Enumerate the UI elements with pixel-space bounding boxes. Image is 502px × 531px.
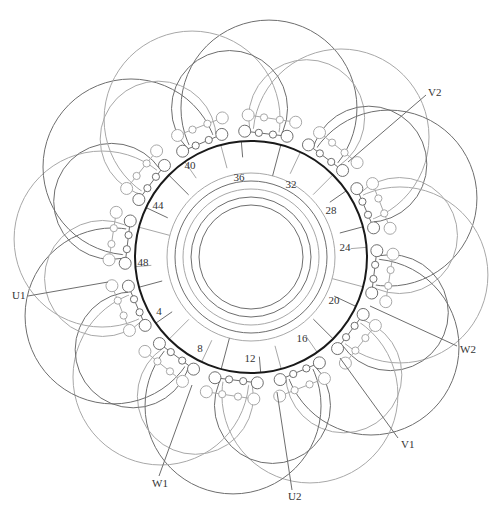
coil-turn-node: [179, 357, 186, 364]
coil-turn-node: [290, 370, 297, 377]
terminal-leader-u2: [277, 392, 292, 490]
coil-turn-node: [125, 231, 132, 238]
coil-end-node: [384, 222, 396, 234]
coil-turn-node: [219, 391, 226, 398]
coil-turn-node: [240, 378, 247, 385]
coil-end-node: [158, 159, 170, 171]
coil-end-node: [200, 386, 212, 398]
coil-end-node: [281, 130, 293, 142]
coil-end-node: [124, 215, 136, 227]
slot-number-label: 4: [156, 305, 162, 317]
coil-turn-node: [359, 198, 366, 205]
coil-turn-node: [108, 240, 115, 247]
coil-turn-node: [110, 225, 117, 232]
coil-turn-node: [341, 149, 348, 156]
coil-end-node: [367, 178, 379, 190]
slot-number-label: 40: [185, 159, 197, 171]
terminal-leader-v1: [340, 358, 398, 438]
coil-turn-node: [351, 322, 358, 329]
coil-turn-node: [306, 381, 313, 388]
coil-turn-node: [192, 142, 199, 149]
coil-end-node: [387, 248, 399, 260]
coil-end-node: [153, 338, 165, 350]
coil-end-node: [151, 145, 163, 157]
coil-turn-node: [255, 129, 262, 136]
coil-turn-node: [375, 195, 382, 202]
coil-end-node: [176, 375, 188, 387]
coil-end-node: [369, 320, 381, 332]
coil-turn-node: [136, 309, 143, 316]
coil-end-node: [216, 112, 228, 124]
slot-number-label: 48: [138, 256, 150, 268]
coil-turn-node: [205, 136, 212, 143]
slot-number-label: 44: [153, 199, 165, 211]
coil-end-node: [172, 129, 184, 141]
terminal-label-w2: W2: [460, 343, 476, 355]
coil-turn-node: [234, 393, 241, 400]
coil-end-node: [123, 324, 135, 336]
coil-end-node: [133, 194, 145, 206]
coil-end-node: [239, 125, 251, 137]
coil-turn-node: [269, 131, 276, 138]
slot-number-label: 36: [234, 171, 246, 183]
terminal-label-u1: U1: [12, 289, 25, 301]
slot-number-label: 32: [286, 178, 297, 190]
coil-turn-node: [370, 275, 377, 282]
coil-turn-node: [130, 296, 137, 303]
coil-end-node: [139, 345, 151, 357]
coil-turn-node: [144, 185, 151, 192]
coil-turn-node: [114, 297, 121, 304]
coil-end-node: [242, 109, 254, 121]
coil-turn-node: [328, 139, 335, 146]
coil-end-node: [314, 127, 326, 139]
winding-diagram: 3632282420161284484440 U1U2V1V2W1W2: [0, 0, 502, 531]
coil-end-node: [380, 296, 392, 308]
coil-end-node: [290, 116, 302, 128]
terminal-leader-u1: [28, 282, 108, 296]
coil-turn-node: [225, 376, 232, 383]
coil-turn-node: [303, 365, 310, 372]
coil-turn-node: [167, 348, 174, 355]
coil-end-node: [274, 374, 286, 386]
coil-end-node: [103, 254, 115, 266]
coil-end-node: [106, 280, 118, 292]
slot-number-label: 24: [340, 241, 352, 253]
coil-turn-node: [260, 114, 267, 121]
coil-turn-node: [123, 246, 130, 253]
terminal-label-v2: V2: [428, 86, 441, 98]
coil-end-node: [302, 139, 314, 151]
coil-turn-node: [387, 266, 394, 273]
slot-number-label: 8: [197, 342, 203, 354]
coil-turn-node: [342, 334, 349, 341]
coil-end-node: [209, 372, 221, 384]
coil-turn-node: [372, 261, 379, 268]
coil-end-node: [371, 245, 383, 257]
coil-end-node: [251, 377, 263, 389]
terminal-label-v1: V1: [401, 438, 414, 450]
coil-end-node: [368, 222, 380, 234]
slot-number-label: 20: [329, 294, 341, 306]
coil-turn-node: [166, 368, 173, 375]
coil-end-node: [177, 145, 189, 157]
coil-end-node: [216, 128, 228, 140]
coil-end-node: [274, 390, 286, 402]
coil-end-node: [248, 393, 260, 405]
coil-turn-node: [364, 211, 371, 218]
coil-end-node: [121, 182, 133, 194]
coil-turn-node: [120, 312, 127, 319]
coil-turn-node: [381, 210, 388, 217]
coil-end-turn-arcs: [14, 20, 488, 494]
terminal-leader-w2: [370, 306, 457, 346]
coil-turn-node: [328, 158, 335, 165]
coil-end-node: [337, 164, 349, 176]
coil-end-node: [366, 287, 378, 299]
terminal-label-u2: U2: [288, 490, 301, 502]
coil-end-node: [122, 280, 134, 292]
coil-end-node: [313, 357, 325, 369]
coil-turn-node: [143, 160, 150, 167]
slot-number-label: 12: [245, 352, 256, 364]
slot-number-label: 28: [326, 204, 338, 216]
slot-number-label: 16: [297, 332, 309, 344]
coil-turn-node: [276, 116, 283, 123]
coil-end-node: [139, 319, 151, 331]
